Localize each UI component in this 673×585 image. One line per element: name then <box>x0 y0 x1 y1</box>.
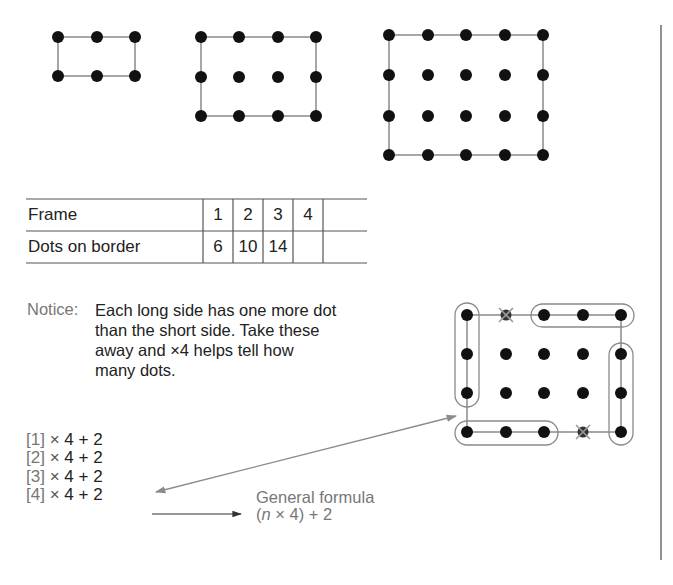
formula-rest: 4 + 2 <box>64 467 102 486</box>
formula-bracket: [3] <box>26 467 45 486</box>
frame-3-dots <box>383 29 549 161</box>
table-cell-frame-3: 3 <box>263 205 293 225</box>
formula-line-2: [2] × 4 + 2 <box>26 448 103 468</box>
crossed-dot-top <box>499 308 513 322</box>
frame-2-dots <box>195 31 322 122</box>
frame-2-dot-grid <box>195 31 322 122</box>
notice-line-4: many dots. <box>95 360 336 380</box>
table-cell-dots-1: 6 <box>203 237 233 257</box>
notice-line-1: Each long side has one more dot <box>95 300 336 320</box>
general-formula-expression: (n × 4) + 2 <box>256 505 332 524</box>
times-sign: × <box>50 467 60 486</box>
formula-line-3: [3] × 4 + 2 <box>26 467 103 487</box>
times-sign: × <box>50 430 60 449</box>
crossed-dot-bottom <box>576 425 590 439</box>
formula-rest: 4 + 2 <box>64 448 102 467</box>
notice-line-3: away and ×4 helps tell how <box>95 340 336 360</box>
formula-line-1: [1] × 4 + 2 <box>26 430 103 450</box>
table-row-label-frame: Frame <box>28 205 77 225</box>
table-cell-frame-4: 4 <box>293 205 323 225</box>
notice-line-2: than the short side. Take these <box>95 320 336 340</box>
frame-1-dots <box>52 31 141 82</box>
times-sign: × <box>50 448 60 467</box>
frame-1-dot-grid <box>52 31 141 82</box>
formula-bracket: [4] <box>26 485 45 504</box>
illustration-dots <box>461 309 627 438</box>
expression-rest: × 4) + 2 <box>271 505 332 523</box>
table-cell-dots-3: 14 <box>263 237 293 257</box>
table-cell-dots-2: 10 <box>233 237 263 257</box>
formula-rest: 4 + 2 <box>64 430 102 449</box>
formula-line-4: [4] × 4 + 2 <box>26 485 103 505</box>
formula-bracket: [2] <box>26 448 45 467</box>
table-cell-frame-2: 2 <box>233 205 263 225</box>
table-row-label-dots: Dots on border <box>28 237 140 257</box>
formula-rest: 4 + 2 <box>64 485 102 504</box>
formula-bracket: [1] <box>26 430 45 449</box>
double-arrow-formula-to-illustration <box>156 416 456 492</box>
frame-3-dot-grid <box>383 29 549 161</box>
variable-n: n <box>262 505 271 523</box>
group-loops <box>455 303 634 445</box>
grouping-illustration <box>455 303 634 445</box>
notice-label: Notice: <box>27 300 78 319</box>
notice-text: Each long side has one more dot than the… <box>95 300 336 380</box>
times-sign: × <box>50 485 60 504</box>
table-cell-frame-1: 1 <box>203 205 233 225</box>
